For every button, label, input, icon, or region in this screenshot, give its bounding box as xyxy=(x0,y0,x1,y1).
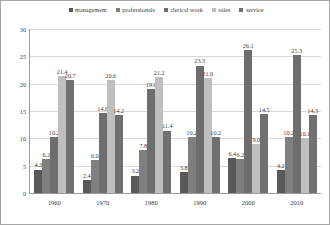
bar-rect xyxy=(83,180,91,193)
bar-sales-1960[interactable]: 21.4 xyxy=(58,29,66,193)
bar-value-label: 3.8 xyxy=(180,165,188,171)
bar-rect xyxy=(131,176,139,193)
y-axis-tick-label: 10 xyxy=(20,135,26,142)
bar-rect xyxy=(58,76,66,193)
bar-management-2000[interactable]: 6.4 xyxy=(228,29,236,193)
bar-value-label: 6.2 xyxy=(236,152,244,158)
bar-rect xyxy=(260,114,268,193)
bar-rect xyxy=(139,150,147,193)
bar-value-label: 20.7 xyxy=(65,73,76,79)
bar-group-2010: 4.210.225.310.114.32010 xyxy=(273,29,322,193)
x-axis-tick-label: 1980 xyxy=(145,199,158,206)
legend-swatch-icon xyxy=(212,8,216,12)
bar-management-1980[interactable]: 3.2 xyxy=(131,29,139,193)
bar-value-label: 6.2 xyxy=(42,152,50,158)
bar-clerical-work-2000[interactable]: 26.1 xyxy=(244,29,252,193)
y-axis-tick-label: 30 xyxy=(20,26,26,33)
legend-label: clerical work xyxy=(170,7,202,13)
bar-rect xyxy=(277,170,285,193)
bar-sales-1990[interactable]: 21.0 xyxy=(204,29,212,193)
chart-legend: managementprofessionalsclerical worksale… xyxy=(1,7,330,13)
y-axis-tick-label: 25 xyxy=(20,53,26,60)
bar-clerical-work-1990[interactable]: 23.3 xyxy=(196,29,204,193)
legend-swatch-icon xyxy=(164,8,168,12)
bar-clerical-work-2010[interactable]: 25.3 xyxy=(293,29,301,193)
legend-item-service[interactable]: service xyxy=(239,7,263,13)
bar-value-label: 14.2 xyxy=(113,108,124,114)
bar-rect xyxy=(147,89,155,193)
bar-rect xyxy=(212,137,220,193)
bar-service-2000[interactable]: 14.5 xyxy=(260,29,268,193)
bar-value-label: 4.3 xyxy=(34,162,42,168)
plot-area: 302520151050 4.36.210.221.420.719602.46.… xyxy=(29,29,321,194)
bar-group-2000: 6.46.226.19.014.52000 xyxy=(224,29,273,193)
bar-service-1960[interactable]: 20.7 xyxy=(66,29,74,193)
legend-label: service xyxy=(246,7,264,13)
bar-value-label: 3.2 xyxy=(131,168,139,174)
bar-value-label: 10.2 xyxy=(210,130,221,136)
bar-value-label: 2.4 xyxy=(83,173,91,179)
x-axis-tick-label: 2000 xyxy=(242,199,255,206)
bar-service-1990[interactable]: 10.2 xyxy=(212,29,220,193)
bar-rect xyxy=(301,138,309,193)
bar-value-label: 14.5 xyxy=(259,107,270,113)
legend-swatch-icon xyxy=(239,8,243,12)
legend-swatch-icon xyxy=(69,8,73,12)
bar-professionals-2000[interactable]: 6.2 xyxy=(236,29,244,193)
legend-label: professionals xyxy=(122,7,155,13)
bar-management-1990[interactable]: 3.8 xyxy=(180,29,188,193)
legend-swatch-icon xyxy=(116,8,120,12)
bar-rect xyxy=(293,55,301,193)
legend-item-management[interactable]: management xyxy=(69,7,107,13)
bar-service-2010[interactable]: 14.3 xyxy=(309,29,317,193)
bar-management-1960[interactable]: 4.3 xyxy=(34,29,42,193)
bar-professionals-1990[interactable]: 10.2 xyxy=(188,29,196,193)
bar-management-2010[interactable]: 4.2 xyxy=(277,29,285,193)
bar-rect xyxy=(244,50,252,193)
legend-label: sales xyxy=(218,7,230,13)
bar-rect xyxy=(228,158,236,193)
bar-rect xyxy=(180,172,188,193)
bar-rect xyxy=(309,115,317,193)
bar-rect xyxy=(99,113,107,193)
bar-rect xyxy=(115,115,123,193)
legend-item-sales[interactable]: sales xyxy=(212,7,231,13)
bar-rect xyxy=(236,159,244,193)
bar-rect xyxy=(34,170,42,194)
y-axis-tick-label: 5 xyxy=(23,162,26,169)
legend-item-clerical-work[interactable]: clerical work xyxy=(164,7,203,13)
legend-label: management xyxy=(75,7,107,13)
bar-clerical-work-1960[interactable]: 10.2 xyxy=(50,29,58,193)
bar-professionals-1960[interactable]: 6.2 xyxy=(42,29,50,193)
bar-value-label: 14.3 xyxy=(307,108,318,114)
bar-rect xyxy=(252,144,260,193)
bar-value-label: 9.0 xyxy=(252,137,260,143)
plot-inner: 302520151050 4.36.210.221.420.719602.46.… xyxy=(29,29,321,194)
bar-service-1970[interactable]: 14.2 xyxy=(115,29,123,193)
bar-clerical-work-1970[interactable]: 14.6 xyxy=(99,29,107,193)
y-axis-tick-label: 0 xyxy=(23,190,26,197)
bar-rect xyxy=(285,137,293,193)
bar-service-1980[interactable]: 11.4 xyxy=(163,29,171,193)
bar-value-label: 4.2 xyxy=(277,163,285,169)
bar-rect xyxy=(188,137,196,193)
bar-value-label: 6.4 xyxy=(228,151,236,157)
bar-management-1970[interactable]: 2.4 xyxy=(83,29,91,193)
bar-value-label: 6.0 xyxy=(91,153,99,159)
x-axis-tick-label: 1960 xyxy=(48,199,61,206)
bar-group-1960: 4.36.210.221.420.71960 xyxy=(30,29,79,193)
bar-group-1970: 2.46.014.620.614.21970 xyxy=(79,29,128,193)
bar-value-label: 11.4 xyxy=(162,123,173,129)
y-axis-tick-label: 15 xyxy=(20,108,26,115)
bar-rect xyxy=(42,159,50,193)
bar-sales-1980[interactable]: 21.2 xyxy=(155,29,163,193)
bar-professionals-1980[interactable]: 7.8 xyxy=(139,29,147,193)
bar-rect xyxy=(163,131,171,193)
x-axis-tick-label: 2010 xyxy=(290,199,303,206)
bar-rect xyxy=(66,80,74,193)
bar-groups: 4.36.210.221.420.719602.46.014.620.614.2… xyxy=(30,29,321,193)
bar-rect xyxy=(196,66,204,193)
legend-item-professionals[interactable]: professionals xyxy=(116,7,155,13)
bar-clerical-work-1980[interactable]: 19.0 xyxy=(147,29,155,193)
bar-value-label: 7.8 xyxy=(139,143,147,149)
